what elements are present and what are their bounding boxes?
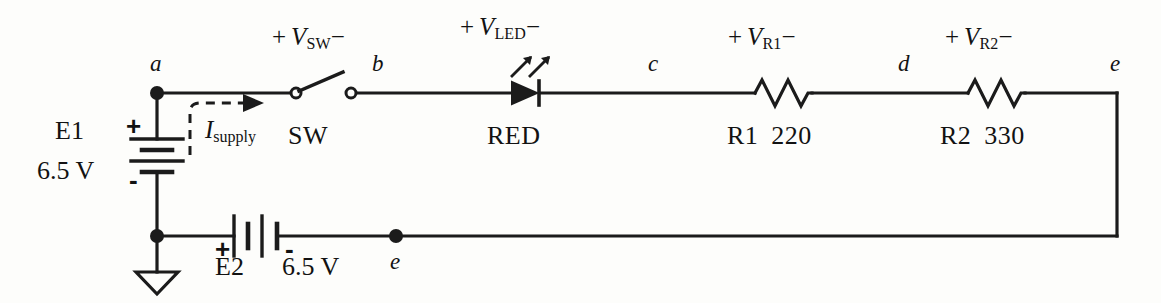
voltage-label-led: +VLED− — [460, 14, 540, 42]
component-label-r2: R2330 — [940, 123, 1025, 149]
voltage-r2-symbol: V — [964, 23, 979, 50]
source-label-e1-name: E1 — [55, 118, 84, 144]
voltage-led-symbol: V — [479, 13, 494, 40]
component-label-led: RED — [487, 123, 541, 149]
node-label-a: a — [150, 52, 162, 75]
voltage-r2-subscript: R2 — [979, 35, 998, 52]
voltage-r2-minus: − — [998, 23, 1012, 50]
e2-minus-sign: - — [285, 236, 294, 262]
current-arrow-head — [243, 94, 264, 112]
node-dot-a — [150, 86, 164, 100]
r1-zigzag — [755, 80, 812, 106]
voltage-r2-plus: + — [945, 23, 959, 50]
voltage-label-sw: +VSW− — [272, 24, 345, 52]
voltage-sw-minus: − — [331, 23, 345, 50]
node-label-c: c — [648, 52, 658, 75]
switch-terminal-right — [346, 88, 356, 98]
e1-plus-sign: + — [126, 113, 141, 139]
node-label-e-bottom: e — [390, 250, 400, 273]
node-dot-bottom-left — [150, 229, 164, 243]
voltage-led-plus: + — [460, 13, 474, 40]
voltage-label-r2: +VR2− — [945, 24, 1013, 52]
r1-value: 220 — [771, 121, 812, 150]
voltage-sw-subscript: SW — [306, 35, 330, 52]
voltage-r1-minus: − — [781, 23, 795, 50]
e2-plus-sign: + — [215, 236, 230, 262]
voltage-label-r1: +VR1− — [728, 24, 796, 52]
voltage-sw-plus: + — [272, 23, 286, 50]
r2-zigzag — [968, 80, 1025, 106]
current-subscript: supply — [213, 128, 256, 145]
led-triangle — [512, 82, 537, 104]
r2-value: 330 — [984, 121, 1025, 150]
r2-name: R2 — [940, 121, 971, 150]
node-label-b: b — [372, 52, 384, 75]
node-dot-e-bottom — [389, 229, 403, 243]
component-label-r1: R1220 — [727, 123, 812, 149]
voltage-sw-symbol: V — [291, 23, 306, 50]
source-label-e1-value: 6.5 V — [37, 158, 94, 184]
node-label-e-top: e — [1110, 52, 1120, 75]
voltage-r1-plus: + — [728, 23, 742, 50]
node-label-d: d — [898, 52, 910, 75]
voltage-r1-subscript: R1 — [762, 35, 781, 52]
ground-triangle — [136, 272, 178, 294]
circuit-diagram: a b c d e e +VSW− +VLED− +VR1− +VR2− SW … — [0, 0, 1161, 303]
r1-name: R1 — [727, 121, 758, 150]
voltage-r1-symbol: V — [747, 23, 762, 50]
switch-blade — [299, 72, 343, 91]
voltage-led-minus: − — [526, 13, 540, 40]
component-label-sw: SW — [288, 123, 328, 149]
current-label-isupply: Isupply — [205, 117, 256, 145]
e1-minus-sign: - — [129, 167, 138, 193]
voltage-led-subscript: LED — [494, 25, 526, 42]
